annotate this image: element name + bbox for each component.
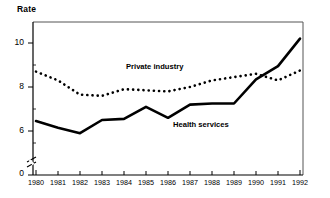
y-tick-label-0: 0 — [8, 169, 24, 178]
series-line-health-services — [36, 39, 300, 134]
plot-frame — [33, 22, 303, 175]
y-tick-label-8: 8 — [8, 82, 24, 91]
y-tick-label-6: 6 — [8, 126, 24, 135]
chart-plot-area — [0, 0, 330, 198]
chart-figure: Rate — [0, 0, 330, 198]
axis-break-symbol — [27, 157, 36, 167]
y-tick-label-10: 10 — [8, 38, 24, 47]
y-axis-ticks — [28, 43, 36, 175]
series-label-health-services: Health services — [173, 120, 229, 129]
series-line-private-industry — [36, 71, 300, 96]
x-axis-ticks — [36, 170, 300, 175]
series-label-private-industry: Private industry — [126, 62, 183, 71]
x-tick-label-1992: 1992 — [287, 178, 313, 187]
